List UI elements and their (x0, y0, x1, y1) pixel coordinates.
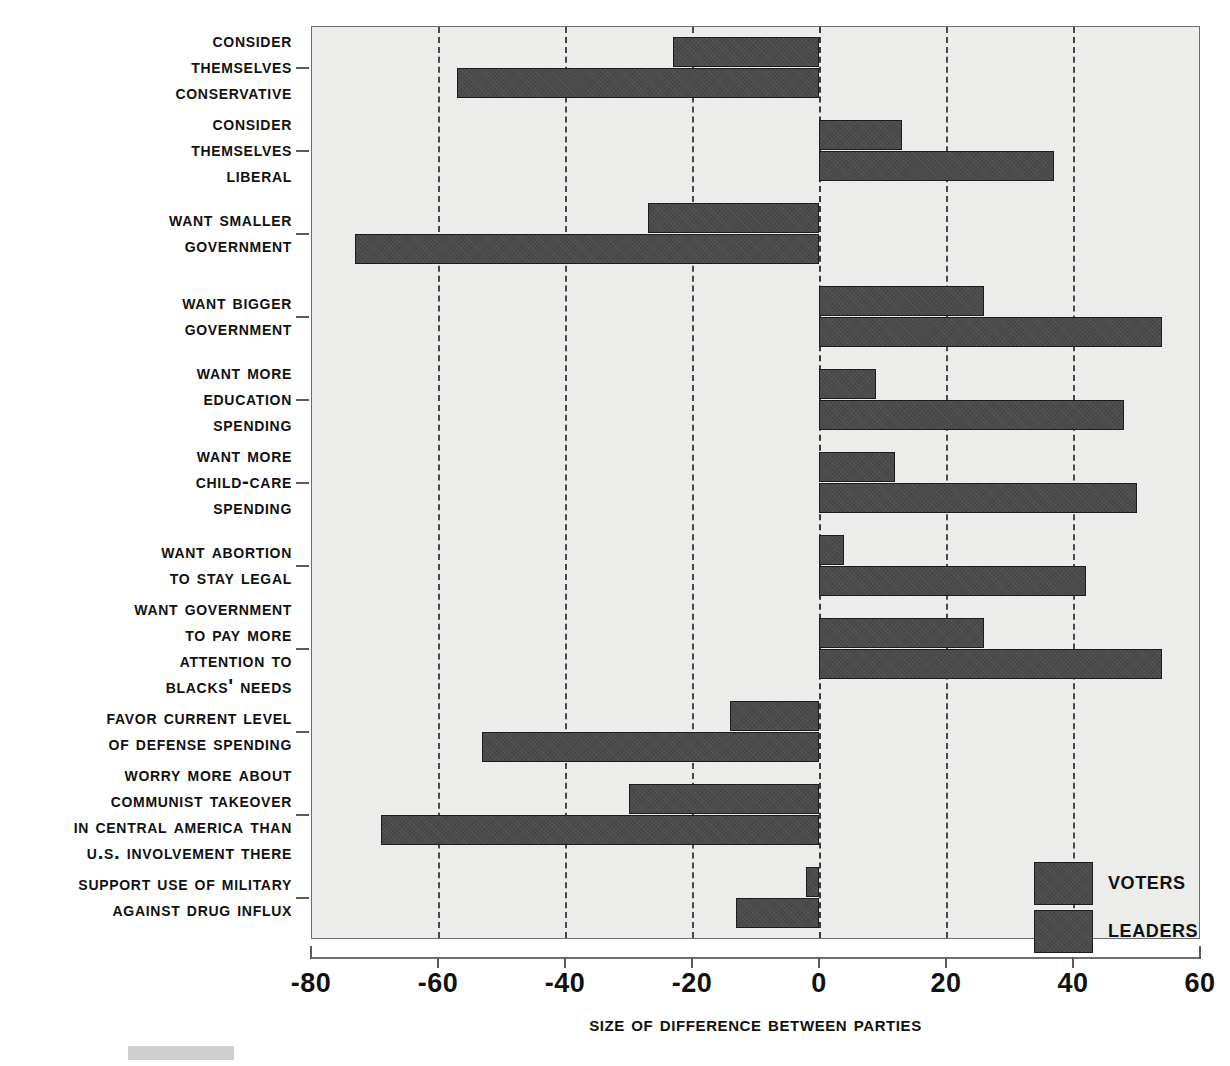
scan-edge-artifact (128, 1046, 234, 1060)
category-label: Want government to pay more attention to… (134, 595, 292, 699)
category-label: Want abortion to stay legal (161, 538, 292, 590)
category-tick (296, 648, 309, 650)
bar-leaders-4 (819, 400, 1124, 430)
bar-leaders-6 (819, 566, 1086, 596)
x-tick-60 (1199, 946, 1201, 959)
category-tick (296, 67, 309, 69)
category-label: Want more education spending (197, 359, 292, 437)
category-tick (296, 565, 309, 567)
category-label: Consider themselves liberal (191, 110, 292, 188)
category-tick (296, 399, 309, 401)
x-axis-line (311, 957, 1201, 959)
x-tick-label-20: 20 (930, 968, 961, 999)
bar-leaders-0 (457, 68, 819, 98)
x-tick--80 (310, 946, 312, 959)
x-tick-40 (1072, 957, 1074, 968)
x-tick-20 (945, 957, 947, 968)
bar-leaders-1 (819, 151, 1054, 181)
x-axis-title: Size of Difference between Parties (311, 1012, 1200, 1036)
category-label: Want bigger government (182, 289, 292, 341)
category-tick (296, 731, 309, 733)
bar-voters-0 (673, 37, 819, 67)
category-tick (296, 316, 309, 318)
x-tick-label-60: 60 (1184, 968, 1215, 999)
gridline--40 (565, 27, 567, 938)
legend-label-voters: Voters (1108, 866, 1186, 895)
bar-leaders-3 (819, 317, 1162, 347)
category-label: Want smaller government (169, 206, 292, 258)
bar-voters-5 (819, 452, 895, 482)
category-label: Favor current level of defense spending (107, 704, 292, 756)
category-tick (296, 482, 309, 484)
legend-label-leaders: Leaders (1108, 914, 1198, 943)
x-tick-label-40: 40 (1057, 968, 1088, 999)
bar-leaders-2 (355, 234, 819, 264)
x-tick-label--60: -60 (418, 968, 459, 999)
bar-leaders-10 (736, 898, 819, 928)
category-label: Support use of military against drug inf… (78, 870, 292, 922)
x-tick--40 (564, 957, 566, 968)
bar-chart-figure: -80-60-40-200204060 Consider themselves … (0, 0, 1230, 1066)
bar-voters-9 (629, 784, 820, 814)
bar-leaders-8 (482, 732, 819, 762)
category-tick (296, 150, 309, 152)
bar-voters-4 (819, 369, 876, 399)
x-tick--20 (691, 957, 693, 968)
gridline--60 (438, 27, 440, 938)
category-tick (296, 814, 309, 816)
legend-swatch-voters (1034, 862, 1093, 905)
bar-voters-8 (730, 701, 819, 731)
x-tick-label--20: -20 (672, 968, 713, 999)
category-label: Want more child-care spending (196, 442, 292, 520)
bar-leaders-9 (381, 815, 819, 845)
bar-voters-1 (819, 120, 902, 150)
bar-voters-10 (806, 867, 819, 897)
bar-leaders-5 (819, 483, 1137, 513)
x-tick-label-0: 0 (811, 968, 827, 999)
x-tick-label--40: -40 (545, 968, 586, 999)
category-tick (296, 233, 309, 235)
x-tick-label--80: -80 (291, 968, 332, 999)
bar-voters-2 (648, 203, 819, 233)
category-label: Worry more about communist takeover in C… (74, 761, 292, 865)
bar-voters-6 (819, 535, 844, 565)
bar-leaders-7 (819, 649, 1162, 679)
legend-swatch-leaders (1034, 910, 1093, 953)
bar-voters-7 (819, 618, 984, 648)
category-tick (296, 897, 309, 899)
category-label: Consider themselves conservative (175, 27, 292, 105)
x-tick--60 (437, 957, 439, 968)
x-tick-0 (818, 957, 820, 968)
bar-voters-3 (819, 286, 984, 316)
